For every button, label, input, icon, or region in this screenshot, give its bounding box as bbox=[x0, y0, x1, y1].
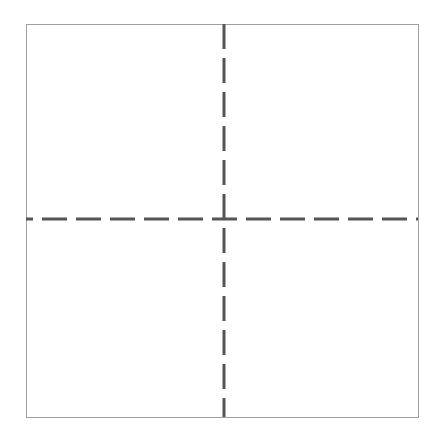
quadrant-diagram bbox=[0, 0, 439, 434]
outer-frame bbox=[27, 25, 419, 418]
